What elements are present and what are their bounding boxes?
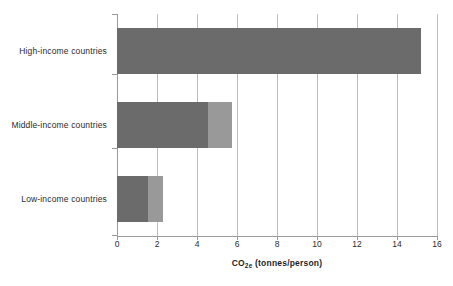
bar-segment-primary bbox=[117, 102, 208, 148]
bar-high-income bbox=[117, 28, 421, 74]
y-axis-label-low-income: Low-income countries bbox=[21, 194, 107, 204]
y-axis-label-middle-income: Middle-income countries bbox=[11, 120, 107, 130]
x-axis-tick-label-12: 12 bbox=[352, 239, 361, 249]
bar-low-income bbox=[117, 176, 163, 222]
bar-segment-primary bbox=[117, 28, 421, 74]
plot-area bbox=[117, 14, 437, 236]
bar-segment-primary bbox=[117, 176, 148, 222]
x-axis-title-suffix: (tonnes/person) bbox=[253, 258, 323, 268]
y-axis-tick-2 bbox=[112, 148, 117, 149]
gridline-16 bbox=[437, 14, 438, 236]
bar-segment-secondary bbox=[148, 176, 163, 222]
x-axis-tick-label-2: 2 bbox=[155, 239, 160, 249]
y-axis-category-labels: High-income countries Middle-income coun… bbox=[0, 14, 112, 236]
x-axis-tick-label-0: 0 bbox=[115, 239, 120, 249]
x-axis-title: CO2e (tonnes/person) bbox=[117, 258, 437, 268]
x-axis-tick-label-8: 8 bbox=[275, 239, 280, 249]
bar-segment-secondary bbox=[208, 102, 232, 148]
y-axis-tick-1 bbox=[112, 74, 117, 75]
x-axis-tick-label-10: 10 bbox=[312, 239, 321, 249]
y-axis-tick-top bbox=[112, 14, 117, 15]
x-axis-tick-label-6: 6 bbox=[235, 239, 240, 249]
bar-middle-income bbox=[117, 102, 232, 148]
x-axis-tick-labels: 0 2 4 6 8 10 12 14 16 bbox=[117, 239, 437, 253]
x-axis-title-subscript: 2e bbox=[245, 262, 253, 269]
x-axis-tick-label-14: 14 bbox=[392, 239, 401, 249]
x-axis-tick-label-16: 16 bbox=[432, 239, 441, 249]
y-axis-label-high-income: High-income countries bbox=[19, 46, 107, 56]
chart-container: High-income countries Middle-income coun… bbox=[0, 0, 453, 286]
x-axis-tick-label-4: 4 bbox=[195, 239, 200, 249]
x-axis-title-prefix: CO bbox=[232, 258, 245, 268]
